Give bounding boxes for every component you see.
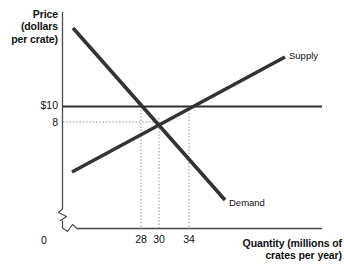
y-tick-label-10: $10	[10, 99, 58, 111]
demand-curve-label: Demand	[229, 197, 265, 208]
x-axis-break-icon	[63, 225, 78, 232]
x-tick-label-34: 34	[175, 233, 203, 245]
origin-label: 0	[36, 234, 52, 246]
y-axis-break-icon	[59, 209, 67, 221]
demand-curve	[73, 28, 225, 200]
supply-curve	[72, 57, 285, 172]
y-axis-title: Price (dollars per crate)	[0, 8, 58, 45]
supply-curve-label: Supply	[289, 50, 318, 61]
x-axis-title: Quantity (millions of crates per year)	[212, 237, 342, 262]
y-tick-label-8: 8	[10, 116, 58, 128]
supply-demand-figure: Price (dollars per crate) $10 8 0 28 30 …	[0, 0, 344, 268]
x-tick-label-30: 30	[145, 233, 173, 245]
